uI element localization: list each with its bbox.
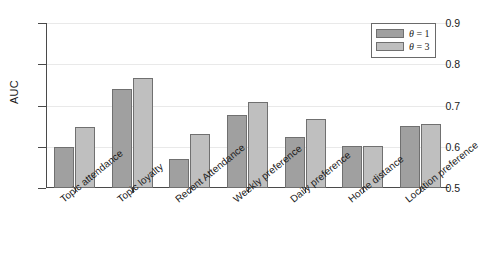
bar [54, 147, 74, 188]
legend-item[interactable]: θ = 3 [376, 40, 430, 53]
y-axis-tick [38, 188, 46, 189]
legend-label: θ = 1 [409, 28, 430, 39]
y-axis-label: AUC [8, 62, 20, 122]
y-axis-tick [38, 106, 46, 107]
y-axis-tick [38, 64, 46, 65]
y-axis-tick [38, 147, 46, 148]
legend-swatch [376, 29, 404, 38]
y-axis-tick [38, 23, 46, 24]
legend-swatch [376, 42, 404, 51]
legend-label: θ = 3 [409, 41, 430, 52]
legend-item[interactable]: θ = 1 [376, 27, 430, 40]
bar [112, 89, 132, 188]
legend: θ = 1θ = 3 [371, 23, 436, 58]
